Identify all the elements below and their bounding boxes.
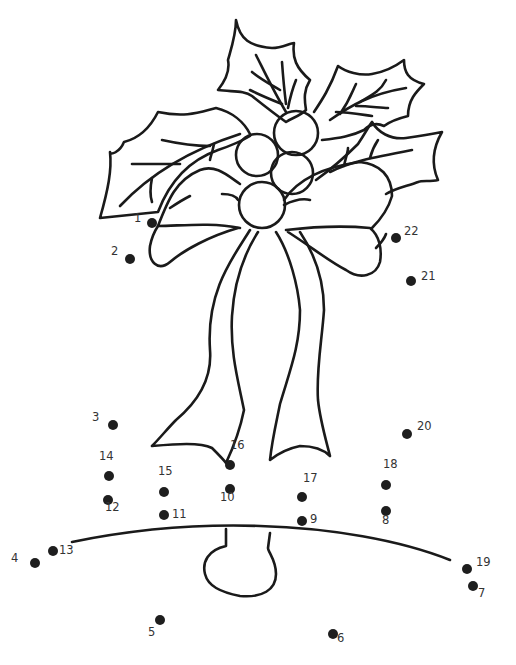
dot-11[interactable] [159,510,169,520]
dot-20[interactable] [402,429,412,439]
dot-label-2: 2 [111,246,118,258]
dot-16[interactable] [225,460,235,470]
dot-5[interactable] [155,615,165,625]
dot-label-11: 11 [172,509,187,521]
dot-label-20: 20 [417,421,432,433]
dot-label-13: 13 [59,545,74,557]
dot-label-17: 17 [303,473,318,485]
dot-17[interactable] [297,492,307,502]
dot-label-5: 5 [148,627,155,639]
dot-label-16: 16 [230,440,245,452]
dot-4[interactable] [30,558,40,568]
dot-label-10: 10 [220,492,235,504]
dot-label-14: 14 [99,451,114,463]
numbered-dots: 12345678910111213141516171819202122 [0,0,516,665]
dot-18[interactable] [381,480,391,490]
dot-14[interactable] [104,471,114,481]
dot-1[interactable] [147,218,157,228]
dot-label-21: 21 [421,271,436,283]
dot-label-6: 6 [337,633,344,645]
dot-label-18: 18 [383,459,398,471]
dot-label-1: 1 [134,213,141,225]
dot-label-7: 7 [478,588,485,600]
dot-19[interactable] [462,564,472,574]
dot-15[interactable] [159,487,169,497]
dot-7[interactable] [468,581,478,591]
dot-21[interactable] [406,276,416,286]
dot-label-15: 15 [158,466,173,478]
dot-label-19: 19 [476,557,491,569]
dot-22[interactable] [391,233,401,243]
dot-2[interactable] [125,254,135,264]
dot-label-3: 3 [92,412,99,424]
dot-9[interactable] [297,516,307,526]
dot-label-8: 8 [382,515,389,527]
dot-label-22: 22 [404,226,419,238]
dot-label-12: 12 [105,502,120,514]
dot-3[interactable] [108,420,118,430]
dot-label-4: 4 [11,553,18,565]
dot-13[interactable] [48,546,58,556]
dot-label-9: 9 [310,514,317,526]
